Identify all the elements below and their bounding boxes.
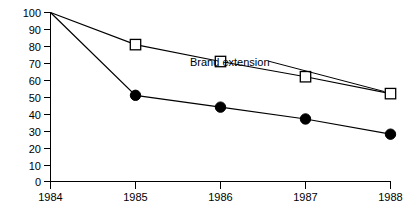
data-point-marker (130, 90, 140, 100)
y-tick-label: 50 (29, 92, 41, 104)
data-point-marker (385, 88, 395, 98)
y-tick-label: 0 (35, 176, 41, 188)
y-tick-label: 60 (29, 75, 41, 87)
annotation-label-brand-extension: Brand extension (190, 56, 270, 68)
data-point-marker (300, 114, 310, 124)
y-tick-label: 20 (29, 143, 41, 155)
y-tick-label: 10 (29, 160, 41, 172)
x-tick-label: 1984 (38, 191, 62, 203)
y-tick-label: 40 (29, 109, 41, 121)
y-tick-label: 70 (29, 58, 41, 70)
chart-container: 100 90 80 70 60 50 40 30 20 10 0 (0, 0, 419, 219)
y-tick-label: 90 (29, 24, 41, 36)
x-tick-label: 1985 (123, 191, 147, 203)
data-point-marker (300, 72, 310, 82)
x-tick-label: 1987 (293, 191, 317, 203)
x-tick-label: 1986 (208, 191, 232, 203)
y-tick-label: 30 (29, 126, 41, 138)
data-point-marker (385, 129, 395, 139)
data-point-marker (215, 102, 225, 112)
line-chart: 100 90 80 70 60 50 40 30 20 10 0 (0, 0, 419, 219)
data-point-marker (130, 39, 140, 49)
x-tick-label: 1988 (378, 191, 402, 203)
chart-background (0, 0, 419, 219)
y-tick-label: 100 (23, 7, 41, 19)
y-tick-label: 80 (29, 41, 41, 53)
